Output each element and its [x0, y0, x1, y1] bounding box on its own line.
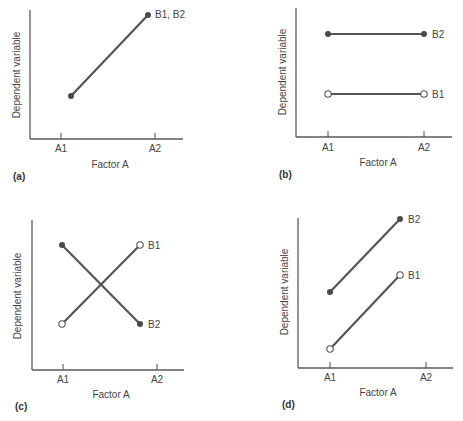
- filled-circle-marker: [421, 31, 427, 37]
- panel-label: (d): [282, 399, 295, 410]
- x-tick-label: A2: [151, 374, 164, 385]
- panel-label: (c): [15, 401, 27, 412]
- panel-c: A1A2Factor ADependent variable(c)B1B2: [12, 220, 184, 412]
- y-axis-title: Dependent variable: [279, 248, 290, 335]
- series-b2: B2: [327, 214, 421, 295]
- x-axis-title: Factor A: [359, 387, 397, 398]
- series-line: [330, 219, 400, 292]
- panel-label: (a): [13, 171, 25, 182]
- open-circle-marker: [397, 272, 403, 278]
- y-axis-title: Dependent variable: [12, 252, 23, 339]
- series-label: B1: [432, 89, 445, 100]
- series-line: [71, 15, 148, 96]
- panel-d: A1A2Factor ADependent variable(d)B2B1: [279, 214, 453, 410]
- x-axis-title: Factor A: [91, 159, 129, 170]
- x-tick-label: A1: [324, 372, 337, 383]
- x-tick-label: A2: [418, 142, 431, 153]
- panel-b: A1A2Factor ADependent variable(b)B2B1: [277, 8, 452, 180]
- panel-label: (b): [279, 169, 292, 180]
- filled-circle-marker: [325, 31, 331, 37]
- series-b1-b2: B1, B2: [68, 9, 185, 99]
- x-tick-label: A1: [57, 374, 70, 385]
- x-tick-label: A2: [149, 143, 162, 154]
- filled-circle-marker: [59, 242, 65, 248]
- series-b1: B1: [327, 270, 421, 352]
- y-axis-title: Dependent variable: [277, 28, 288, 115]
- filled-circle-marker: [145, 12, 151, 18]
- interaction-plots-figure: A1A2Factor ADependent variable(a)B1, B2 …: [0, 0, 463, 421]
- series-label: B2: [432, 29, 445, 40]
- series-label: B1: [408, 270, 421, 281]
- filled-circle-marker: [137, 321, 143, 327]
- y-axis-title: Dependent variable: [11, 31, 22, 118]
- series-label: B1: [148, 240, 161, 251]
- panel-a: A1A2Factor ADependent variable(a)B1, B2: [11, 9, 185, 182]
- open-circle-marker: [327, 346, 333, 352]
- series-line: [330, 275, 400, 349]
- series-b1: B1: [325, 89, 445, 100]
- open-circle-marker: [59, 321, 65, 327]
- series-b1: B1: [59, 240, 161, 327]
- x-axis-title: Factor A: [92, 389, 130, 400]
- filled-circle-marker: [327, 289, 333, 295]
- open-circle-marker: [421, 91, 427, 97]
- x-tick-label: A1: [322, 142, 335, 153]
- series-label: B2: [408, 214, 421, 225]
- series-label: B1, B2: [155, 9, 185, 20]
- x-tick-label: A2: [420, 372, 433, 383]
- series-label: B2: [148, 319, 161, 330]
- open-circle-marker: [137, 242, 143, 248]
- x-tick-label: A1: [55, 143, 68, 154]
- filled-circle-marker: [68, 93, 74, 99]
- series-b2: B2: [59, 242, 161, 330]
- open-circle-marker: [325, 91, 331, 97]
- series-b2: B2: [325, 29, 445, 40]
- x-axis-title: Factor A: [359, 157, 397, 168]
- filled-circle-marker: [397, 216, 403, 222]
